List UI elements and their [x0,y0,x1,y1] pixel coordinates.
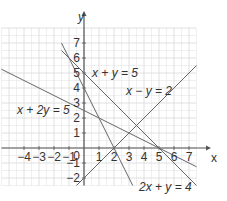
x-tick-label: −2 [47,150,61,164]
y-tick-label: 1 [73,126,80,140]
x-tick-label: 5 [156,150,163,164]
y-tick-label: 6 [73,51,80,65]
x-axis-arrow-icon [206,146,211,151]
x-tick-label: 4 [141,150,148,164]
x-tick-label: −4 [17,150,31,164]
x-tick-label: 2 [111,150,118,164]
x-tick-label: 6 [171,150,178,164]
y-tick-label: 7 [73,36,80,50]
x-tick-label: 3 [126,150,133,164]
y-tick-label: 4 [73,81,80,95]
y-tick-label: −2 [66,171,80,185]
graph: −4−3−2−11234567−2−112345670 y x x + y = … [0,0,227,201]
y-axis-label: y [77,10,85,24]
label-x-plus-y-eq-5: x + y = 5 [91,66,138,80]
x-tick-label: 1 [96,150,103,164]
label-x-minus-y-eq-2: x − y = 2 [125,84,172,98]
x-axis-label: x [211,151,217,165]
x-tick-label: 7 [186,150,193,164]
x-tick-label: −3 [32,150,46,164]
origin-label: 0 [73,149,80,163]
label-2x-plus-y-eq-4: 2x + y = 4 [138,180,192,194]
y-tick-label: 5 [73,66,80,80]
y-tick-label: 3 [73,96,80,110]
y-tick-label: 2 [73,111,80,125]
label-x-plus-2y-eq-5: x + 2y = 5 [16,103,70,117]
